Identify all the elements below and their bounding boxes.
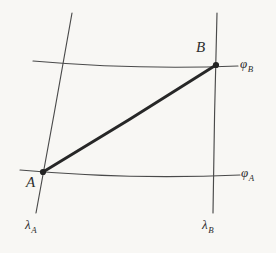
parallel-label-phi-A: φA [241, 166, 254, 182]
phi-b-subscript: B [247, 64, 253, 74]
geodesic-diagram [0, 0, 276, 253]
point-marker-B [213, 62, 219, 68]
meridian-lambda-B [213, 13, 217, 213]
meridian-lambda-A [36, 13, 72, 213]
meridian-label-lambda-A: λA [25, 218, 37, 234]
point-label-B: B [196, 40, 205, 55]
lambda-a-subscript: A [31, 225, 37, 235]
geodesic-line-AB [43, 65, 216, 172]
lambda-glyph: λ [25, 217, 31, 232]
point-label-A: A [26, 175, 35, 190]
parallel-phi-A [20, 170, 240, 177]
meridian-label-lambda-B: λB [202, 218, 214, 234]
lambda-b-subscript: B [208, 225, 214, 235]
figure-canvas: A B φB φA λA λB [0, 0, 276, 253]
phi-a-subscript: A [248, 173, 254, 183]
point-marker-A [40, 169, 46, 175]
parallel-label-phi-B: φB [240, 57, 253, 73]
lambda-glyph: λ [202, 217, 208, 232]
